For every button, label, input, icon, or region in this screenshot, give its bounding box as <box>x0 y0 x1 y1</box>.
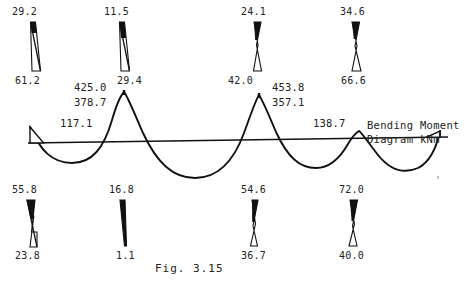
top-column-2-top-label: 11.5 <box>104 6 129 17</box>
bottom-column-4-fill <box>350 200 358 221</box>
support-2-upper-label: 425.0 <box>74 82 107 93</box>
top-column-4-top-label: 34.6 <box>340 6 365 17</box>
top-column-3-bottom-label: 42.0 <box>228 75 253 86</box>
diagram-label-line-1: Bending Moment <box>367 118 460 132</box>
support-3-upper-label: 453.8 <box>272 82 305 93</box>
scan-artifact-speck <box>437 176 439 179</box>
support-2-lower-label: 378.7 <box>74 97 107 108</box>
bottom-column-1-bottom-label: 23.8 <box>15 250 40 261</box>
bottom-column-3-bottom-label: 36.7 <box>241 250 266 261</box>
diagram-label-line-2: Diagram kNm <box>367 132 440 146</box>
bottom-column-2-bottom-label: 1.1 <box>116 250 135 261</box>
top-column-1-top-label: 29.2 <box>12 6 37 17</box>
bottom-column-3-top-label: 54.6 <box>241 184 266 195</box>
support-3-lower-label: 357.1 <box>272 97 305 108</box>
top-column-3-fill <box>254 22 261 40</box>
top-column-3-top-label: 24.1 <box>241 6 266 17</box>
top-column-4-bottom-label: 66.6 <box>341 75 366 86</box>
left-end-moment-triangle <box>30 127 44 143</box>
top-column-1-bottom-label: 61.2 <box>15 75 40 86</box>
bottom-column-4-bottom-label: 40.0 <box>339 250 364 261</box>
figure-caption: Fig. 3.15 <box>155 262 224 275</box>
bottom-column-shapes <box>27 200 358 247</box>
bottom-column-2-top-label: 16.8 <box>109 184 134 195</box>
bottom-column-1-top-label: 55.8 <box>12 184 37 195</box>
top-column-shapes <box>31 22 362 71</box>
figure-canvas: 29.2 61.2 11.5 29.4 24.1 42.0 34.6 66.6 … <box>0 0 472 282</box>
top-column-2-bottom-label: 29.4 <box>117 75 142 86</box>
bottom-column-4-top-label: 72.0 <box>339 184 364 195</box>
right-end-moment-label: 138.7 <box>313 118 346 129</box>
left-end-moment-label: 117.1 <box>60 118 93 129</box>
